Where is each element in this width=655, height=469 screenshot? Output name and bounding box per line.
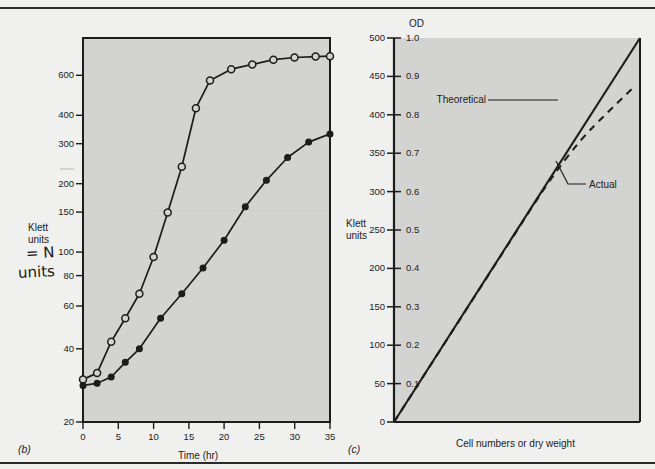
panel-b-ytick-300: 300: [58, 139, 74, 149]
handwritten-annotation-line1: = N: [26, 243, 55, 262]
panel-c-x-axis-title: Cell numbers or dry weight: [456, 438, 575, 450]
panel-b-xtick-20: 20: [219, 432, 230, 442]
panel-b-xtick-25: 25: [254, 432, 265, 442]
panel-c-letter: (c): [348, 443, 360, 455]
panel-c-od-1.0: 1.0: [406, 33, 419, 43]
panel-b-xtick-10: 10: [148, 432, 159, 442]
panel-c-klett-400: 400: [369, 110, 385, 120]
panel-b-svg: [0, 0, 340, 469]
panel-b-xtick-5: 5: [116, 432, 121, 442]
panel-c-od-0.7: 0.7: [406, 148, 419, 158]
panel-c-od-0.9: 0.9: [406, 72, 419, 82]
panel-c-od-0.5: 0.5: [406, 225, 419, 235]
panel-c-klett-100: 100: [369, 340, 385, 350]
panel-b-ytick-40: 40: [63, 344, 74, 354]
panel-c-klett-450: 450: [369, 72, 385, 82]
panel-c-svg: [340, 0, 655, 469]
series-filled-circle-line: [83, 134, 330, 386]
panel-b-y-ticks: [76, 75, 83, 422]
actual-leader-line: [556, 161, 586, 184]
annotation-actual: Actual: [589, 180, 617, 190]
panel-c-od-0.1: 0.1: [406, 379, 419, 389]
panel-c-klett-300: 300: [369, 187, 385, 197]
series-open-circle-line: [83, 56, 330, 379]
series-open-circle-markers: [80, 53, 334, 383]
panel-c-od-0.2: 0.2: [406, 340, 419, 350]
panel-b: 20 40 60 80 100 150 200 300 400 600 0 5 …: [0, 0, 340, 469]
panel-b-ytick-200: 200: [58, 179, 74, 189]
panel-b-ytick-80: 80: [63, 271, 74, 281]
panel-b-xtick-30: 30: [289, 432, 300, 442]
panel-c-klett-200: 200: [369, 264, 385, 274]
panel-c-klett-250: 250: [369, 225, 385, 235]
panel-c-od-0.8: 0.8: [406, 110, 419, 120]
series-filled-circle-markers: [80, 131, 333, 388]
panel-c-od-0.6: 0.6: [406, 187, 419, 197]
annotation-theoretical: Theoretical: [437, 95, 486, 105]
series-actual-line: [394, 88, 633, 422]
panel-c-klett-50: 50: [374, 379, 385, 389]
panel-b-ytick-20: 20: [63, 417, 74, 427]
panel-b-ytick-60: 60: [63, 301, 74, 311]
panel-b-letter: (b): [18, 443, 31, 455]
panel-b-xtick-15: 15: [184, 432, 195, 442]
panel-c-od-axis-title: OD: [409, 18, 424, 30]
handwritten-annotation-line2: units: [18, 262, 56, 282]
panel-b-ytick-150: 150: [58, 207, 74, 217]
figure-canvas: 20 40 60 80 100 150 200 300 400 600 0 5 …: [0, 0, 655, 469]
panel-c: 0 50 100 150 200 250 300 350 400 450 500…: [340, 0, 655, 469]
panel-c-y-axis-title-line1: Klett: [346, 218, 366, 230]
panel-c-klett-350: 350: [369, 148, 385, 158]
panel-b-xtick-35: 35: [325, 432, 336, 442]
panel-c-y-axis-title-line2: units: [346, 230, 367, 242]
panel-b-y-axis-title-line1: Klett: [28, 222, 48, 234]
panel-b-xtick-0: 0: [80, 432, 85, 442]
panel-b-ytick-100: 100: [58, 247, 74, 257]
panel-c-od-0.3: 0.3: [406, 302, 419, 312]
panel-b-x-axis-title: Time (hr): [178, 450, 218, 462]
panel-b-frame: [83, 38, 330, 422]
panel-c-klett-150: 150: [369, 302, 385, 312]
panel-b-ytick-400: 400: [58, 111, 74, 121]
panel-c-od-0.4: 0.4: [406, 264, 419, 274]
panel-c-klett-0: 0: [380, 417, 385, 427]
panel-b-x-ticks: [83, 422, 330, 429]
panel-c-klett-500: 500: [369, 33, 385, 43]
panel-b-ytick-600: 600: [58, 71, 74, 81]
